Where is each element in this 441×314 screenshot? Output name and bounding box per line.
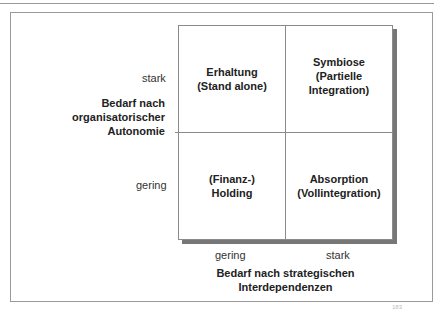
cell-holding: (Finanz-) Holding [179,133,285,239]
footnote-marker: 183 [392,304,402,310]
x-axis-low-label: gering [215,249,246,261]
y-axis-high-label: stark [142,72,166,84]
x-axis-title: Bedarf nach strategischen Interdependenz… [178,266,393,294]
y-axis-low-label: gering [136,179,167,191]
x-axis-high-label: stark [326,249,350,261]
y-axis-title: Bedarf nach organisatorischer Autonomie [72,96,165,138]
integration-matrix: Erhaltung (Stand alone) Symbiose (Partie… [178,25,393,240]
cell-erhaltung: Erhaltung (Stand alone) [179,26,285,132]
cell-absorption: Absorption (Vollintegration) [286,133,392,239]
cell-symbiose: Symbiose (Partielle Integration) [286,26,392,126]
top-rule [0,3,434,4]
